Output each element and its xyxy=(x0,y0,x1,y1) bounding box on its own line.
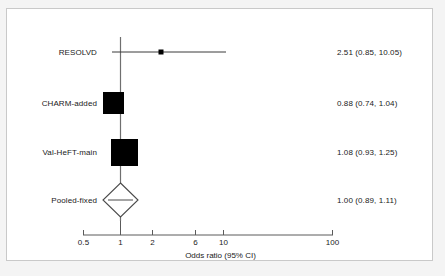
forest-row-resolvd xyxy=(112,50,226,55)
study-label-charm-added: CHARM-added xyxy=(7,99,97,108)
point-estimate-marker-charm-added xyxy=(103,92,124,114)
x-tick-label-6: 6 xyxy=(181,238,210,247)
x-tick-label-0-5: 0.5 xyxy=(69,238,98,247)
study-label-val-heft-main: Val-HeFT-main xyxy=(7,148,97,157)
effect-estimate-val-heft-main: 1.08 (0.93, 1.25) xyxy=(337,148,397,157)
effect-estimate-charm-added: 0.88 (0.74, 1.04) xyxy=(337,99,397,108)
forest-row-pooled-fixed xyxy=(103,183,138,217)
x-tick-label-10: 10 xyxy=(209,238,238,247)
screenshot-root: RESOLVD CHARM-added Val-HeFT-main Pooled… xyxy=(0,0,445,276)
effect-estimate-resolvd: 2.51 (0.85, 10.05) xyxy=(337,48,402,57)
study-label-resolvd: RESOLVD xyxy=(17,48,97,57)
point-estimate-marker-resolvd xyxy=(159,50,164,55)
point-estimate-marker-val-heft-main xyxy=(111,139,138,166)
x-axis-title: Odds ratio (95% CI) xyxy=(7,251,434,260)
forest-plot-graphic xyxy=(7,9,434,262)
forest-row-charm-added xyxy=(103,92,124,114)
study-label-pooled-fixed: Pooled-fixed xyxy=(7,196,97,205)
effect-estimate-pooled-fixed: 1.00 (0.89, 1.11) xyxy=(337,196,397,205)
x-tick-label-100: 100 xyxy=(318,238,347,247)
x-tick-label-1: 1 xyxy=(106,238,135,247)
forest-plot-panel: RESOLVD CHARM-added Val-HeFT-main Pooled… xyxy=(6,8,433,261)
forest-row-val-heft-main xyxy=(111,139,138,166)
x-axis xyxy=(83,221,333,235)
x-tick-label-2: 2 xyxy=(138,238,167,247)
